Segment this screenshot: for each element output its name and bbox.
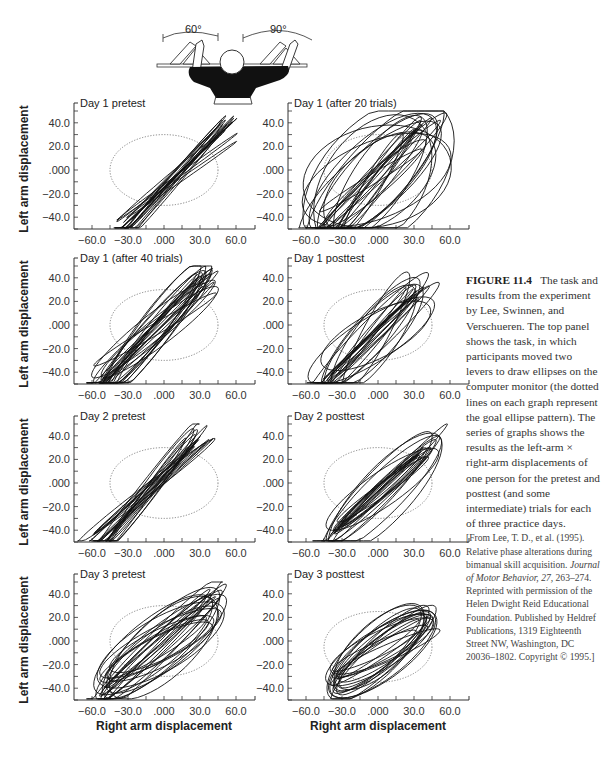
x-tick-label: .000 — [153, 547, 174, 559]
x-tick-label: 30.0 — [403, 234, 424, 246]
trajectory-trace — [299, 111, 455, 228]
x-tick-label: 30.0 — [403, 705, 424, 717]
y-axis-label: Left arm displacement — [17, 576, 31, 703]
y-tick-label: 20.0 — [263, 295, 284, 307]
x-tick-label: −30.0 — [114, 705, 142, 717]
x-tick-label: .000 — [153, 705, 174, 717]
x-tick-label: .000 — [367, 547, 388, 559]
y-tick-label: .000 — [49, 164, 70, 176]
x-tick-label: −30.0 — [114, 389, 142, 401]
x-tick-label: .000 — [153, 234, 174, 246]
head — [220, 50, 244, 74]
x-tick-label: .000 — [367, 705, 388, 717]
x-tick-label: 30.0 — [189, 705, 210, 717]
y-tick-label: .000 — [263, 164, 284, 176]
y-tick-label: .000 — [263, 319, 284, 331]
trajectory-trace — [86, 266, 218, 383]
trajectory-trace — [114, 116, 238, 228]
chart-panel-8: Day 3 posttest40.020.0.000−20.0−40.0−60.… — [256, 568, 469, 733]
trajectory-trace — [326, 604, 440, 699]
panel-title: Day 2 pretest — [80, 410, 145, 422]
y-tick-label: 40.0 — [49, 117, 70, 129]
x-tick-label: 30.0 — [403, 547, 424, 559]
y-tick-label: 20.0 — [49, 140, 70, 152]
chart-panel-5: Day 2 pretest40.020.0.000−20.0−40.0−60.0… — [17, 410, 255, 559]
chart-panel-1: Day 1 pretest40.020.0.000−20.0−40.0−60.0… — [17, 97, 255, 246]
y-tick-label: −40.0 — [42, 682, 70, 694]
y-tick-label: 40.0 — [263, 117, 284, 129]
chart-panel-2: Day 1 (after 20 trials)40.020.0.000−20.0… — [256, 97, 469, 246]
x-tick-label: −30.0 — [114, 547, 142, 559]
x-tick-label: −30.0 — [328, 547, 356, 559]
x-tick-label: −60.0 — [78, 705, 106, 717]
x-axis-label: Right arm displacement — [96, 719, 232, 733]
y-tick-label: 20.0 — [263, 140, 284, 152]
y-tick-label: −40.0 — [256, 682, 284, 694]
y-tick-label: 20.0 — [49, 453, 70, 465]
y-tick-label: 40.0 — [263, 430, 284, 442]
x-tick-label: −30.0 — [328, 705, 356, 717]
y-tick-label: .000 — [49, 319, 70, 331]
caption-text: The task and results from the experiment… — [466, 274, 600, 529]
x-tick-label: −60.0 — [78, 234, 106, 246]
x-tick-label: −60.0 — [292, 389, 320, 401]
y-tick-label: −20.0 — [42, 659, 70, 671]
y-tick-label: −20.0 — [42, 501, 70, 513]
x-tick-label: −60.0 — [78, 389, 106, 401]
x-tick-label: 30.0 — [189, 389, 210, 401]
y-tick-label: −40.0 — [256, 366, 284, 378]
x-tick-label: 60.0 — [439, 547, 460, 559]
y-tick-label: −20.0 — [42, 188, 70, 200]
panel-title: Day 2 posttest — [294, 410, 364, 422]
x-tick-label: 30.0 — [403, 389, 424, 401]
panels-grid: Day 1 pretest40.020.0.000−20.0−40.0−60.0… — [17, 97, 469, 733]
panel-title: Day 1 (after 20 trials) — [294, 97, 397, 109]
task-illustration: 60° 90° — [157, 23, 312, 104]
x-tick-label: −30.0 — [328, 389, 356, 401]
x-tick-label: 60.0 — [225, 705, 246, 717]
y-tick-label: .000 — [263, 477, 284, 489]
y-tick-label: −20.0 — [256, 188, 284, 200]
x-tick-label: 60.0 — [225, 547, 246, 559]
x-tick-label: −60.0 — [292, 705, 320, 717]
y-tick-label: 40.0 — [263, 272, 284, 284]
trajectory-trace — [307, 272, 439, 383]
trajectory-trace — [87, 582, 227, 699]
y-tick-label: −20.0 — [256, 501, 284, 513]
x-tick-label: −30.0 — [328, 234, 356, 246]
y-tick-label: 20.0 — [49, 611, 70, 623]
x-tick-label: 30.0 — [189, 234, 210, 246]
y-tick-label: −40.0 — [256, 524, 284, 536]
y-tick-label: .000 — [263, 635, 284, 647]
x-tick-label: 60.0 — [225, 389, 246, 401]
x-tick-label: −60.0 — [292, 547, 320, 559]
x-axis-label: Right arm displacement — [310, 719, 446, 733]
figure-label: FIGURE 11.4 — [466, 274, 532, 286]
chart-panel-7: Day 3 pretest40.020.0.000−20.0−40.0−60.0… — [17, 568, 255, 733]
y-tick-label: 40.0 — [49, 272, 70, 284]
y-tick-label: .000 — [49, 635, 70, 647]
x-tick-label: 30.0 — [189, 547, 210, 559]
y-tick-label: −40.0 — [42, 366, 70, 378]
y-tick-label: −40.0 — [42, 524, 70, 536]
x-tick-label: 60.0 — [225, 234, 246, 246]
chart-panel-3: Day 1 (after 40 trials)40.020.0.000−20.0… — [17, 252, 255, 401]
trajectory-trace — [313, 424, 448, 541]
y-tick-label: 40.0 — [49, 430, 70, 442]
x-tick-label: 60.0 — [439, 389, 460, 401]
panel-title: Day 1 (after 40 trials) — [80, 252, 183, 264]
y-axis-label: Left arm displacement — [17, 105, 31, 232]
y-axis-label: Left arm displacement — [17, 418, 31, 545]
panel-title: Day 3 pretest — [80, 568, 145, 580]
figure-caption: FIGURE 11.4 The task and results from th… — [466, 273, 600, 663]
x-tick-label: .000 — [153, 389, 174, 401]
y-tick-label: −40.0 — [256, 211, 284, 223]
y-tick-label: 20.0 — [263, 611, 284, 623]
chart-panel-6: Day 2 posttest40.020.0.000−20.0−40.0−60.… — [256, 410, 469, 559]
y-tick-label: 20.0 — [49, 295, 70, 307]
y-tick-label: −20.0 — [42, 343, 70, 355]
caption-citation: [From Lee, T. D., et al. (1995). Relativ… — [466, 531, 600, 663]
chart-panel-4: Day 1 posttest40.020.0.000−20.0−40.0−60.… — [256, 252, 469, 401]
y-tick-label: 20.0 — [263, 453, 284, 465]
y-tick-label: .000 — [49, 477, 70, 489]
